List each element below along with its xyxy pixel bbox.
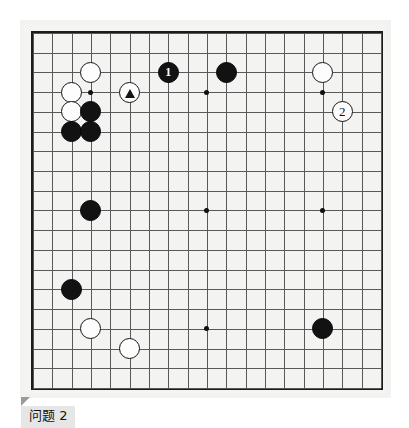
star-point: [204, 208, 209, 213]
go-board[interactable]: 12: [24, 24, 386, 393]
black-stone[interactable]: 1: [158, 62, 179, 83]
move-number-label: 1: [165, 66, 171, 78]
caption-label: 问题 2: [21, 406, 75, 428]
grid-line-vertical: [149, 33, 150, 388]
black-stone[interactable]: [61, 279, 82, 300]
black-stone[interactable]: [312, 318, 333, 339]
star-point: [88, 90, 93, 95]
figure-caption: 问题 2: [21, 397, 141, 425]
board-grid[interactable]: 12: [31, 31, 383, 390]
triangle-mark-icon: [125, 89, 135, 98]
white-stone[interactable]: [61, 82, 82, 103]
grid-line-vertical: [246, 33, 247, 388]
white-stone[interactable]: [80, 62, 101, 83]
star-point: [204, 90, 209, 95]
white-stone[interactable]: [119, 338, 140, 359]
grid-line-vertical: [188, 33, 189, 388]
white-stone[interactable]: [80, 318, 101, 339]
grid-line-vertical: [304, 33, 305, 388]
star-point: [320, 90, 325, 95]
triangle-pointer-icon: [21, 397, 30, 406]
white-stone[interactable]: 2: [332, 101, 353, 122]
grid-line-horizontal: [33, 388, 381, 389]
black-stone[interactable]: [216, 62, 237, 83]
grid-line-vertical: [33, 33, 34, 388]
grid-line-vertical: [342, 33, 343, 388]
move-number-label: 2: [339, 105, 346, 118]
grid-line-vertical: [110, 33, 111, 388]
grid-line-vertical: [168, 33, 169, 388]
grid-line-vertical: [284, 33, 285, 388]
grid-line-vertical: [265, 33, 266, 388]
grid-line-vertical: [52, 33, 53, 388]
white-stone[interactable]: [312, 62, 333, 83]
white-stone[interactable]: [61, 101, 82, 122]
white-stone[interactable]: [119, 82, 140, 103]
star-point: [204, 326, 209, 331]
star-point: [320, 208, 325, 213]
grid-line-vertical: [362, 33, 363, 388]
grid-line-vertical: [381, 33, 382, 388]
black-stone[interactable]: [61, 121, 82, 142]
black-stone[interactable]: [80, 121, 101, 142]
black-stone[interactable]: [80, 101, 101, 122]
black-stone[interactable]: [80, 200, 101, 221]
grid-line-vertical: [226, 33, 227, 388]
